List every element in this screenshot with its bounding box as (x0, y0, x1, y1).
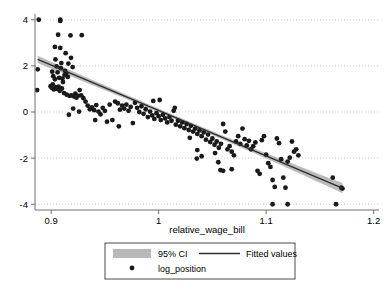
legend-label-ci: 95% CI (158, 249, 188, 259)
data-point (130, 121, 135, 126)
data-point (204, 137, 209, 142)
data-point (55, 70, 60, 75)
data-point (268, 164, 273, 169)
data-point (77, 109, 82, 114)
data-point (240, 126, 245, 131)
data-point (118, 107, 123, 112)
data-point (102, 108, 107, 113)
data-point (36, 17, 41, 22)
data-point (330, 175, 335, 180)
x-axis-title: relative_wage_bill (169, 224, 245, 235)
data-point (92, 108, 97, 113)
data-point (182, 126, 187, 131)
data-point (135, 105, 140, 110)
data-point (158, 118, 163, 123)
data-point (334, 202, 339, 207)
data-point (128, 105, 133, 110)
data-point (94, 103, 99, 108)
data-point (115, 101, 120, 106)
x-tick-label: 0.9 (45, 215, 58, 226)
data-point (229, 167, 234, 172)
data-point (187, 135, 192, 140)
data-point (206, 132, 211, 137)
data-point (66, 61, 71, 66)
data-point (52, 77, 57, 82)
data-point (59, 86, 64, 91)
x-tick-label: 1.2 (367, 215, 380, 226)
data-point (194, 156, 199, 161)
data-point (272, 185, 277, 190)
data-point (65, 75, 70, 80)
y-tick-label: -4 (20, 199, 28, 210)
legend-label-fitted: Fitted values (246, 249, 298, 259)
data-point (270, 178, 275, 183)
data-point (69, 55, 74, 60)
data-point (56, 32, 61, 37)
data-point (210, 136, 215, 141)
data-point (79, 33, 84, 38)
data-point (68, 33, 73, 38)
legend: 95% CI Fitted values log_position (105, 243, 298, 279)
data-point (283, 185, 288, 190)
scatter-plot-svg: 420-2-4 0.911.11.2 relative_wage_bill 95… (0, 0, 390, 290)
data-point (137, 110, 142, 115)
legend-swatch-points (130, 266, 135, 271)
x-tick-label: 1 (156, 215, 161, 226)
data-point (296, 153, 301, 158)
data-point (287, 155, 292, 160)
data-point (61, 80, 66, 85)
legend-label-points: log_position (158, 264, 206, 274)
data-point (172, 105, 177, 110)
data-point (35, 67, 40, 72)
data-point (294, 147, 299, 152)
data-point (216, 160, 221, 165)
data-point (58, 46, 63, 51)
data-point (98, 112, 103, 117)
data-point (52, 45, 57, 50)
data-point (227, 144, 232, 149)
data-point (242, 137, 247, 142)
data-point (110, 118, 115, 123)
data-point (124, 102, 129, 107)
data-point (257, 171, 262, 176)
data-point (53, 57, 58, 62)
data-point (77, 88, 82, 93)
data-point (219, 141, 224, 146)
data-point (285, 202, 290, 207)
data-point (63, 51, 68, 56)
data-point (66, 112, 71, 117)
data-point (223, 129, 228, 134)
x-tick-label: 1.1 (260, 215, 273, 226)
data-point (93, 118, 98, 123)
data-point (236, 134, 241, 139)
data-point (50, 69, 55, 74)
data-point (58, 19, 63, 24)
data-point (186, 128, 191, 133)
data-point (277, 141, 282, 146)
data-point (152, 117, 157, 122)
data-point (221, 168, 226, 173)
data-point (151, 99, 156, 104)
data-point (281, 175, 286, 180)
data-point (59, 61, 64, 66)
data-point (165, 120, 170, 125)
data-point (169, 118, 174, 123)
data-point (213, 151, 218, 156)
data-point (247, 138, 252, 143)
data-point (214, 139, 219, 144)
data-point (270, 202, 275, 207)
legend-swatch-ci (113, 249, 151, 258)
data-point (231, 153, 236, 158)
data-point (71, 106, 76, 111)
data-point (262, 134, 267, 139)
data-point (157, 98, 162, 103)
y-tick-label: 4 (23, 14, 28, 25)
data-point (145, 115, 150, 120)
data-point (116, 124, 121, 129)
y-tick-label: 2 (23, 60, 28, 71)
data-point (70, 65, 75, 70)
data-point (199, 154, 204, 159)
data-point (195, 148, 200, 153)
data-point (107, 102, 112, 107)
y-tick-label: 0 (23, 106, 28, 117)
